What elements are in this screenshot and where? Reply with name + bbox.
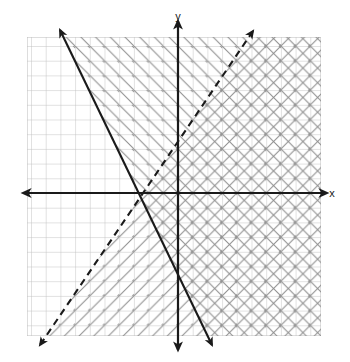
y-axis-label: y [175, 10, 181, 22]
x-axis-label: x [329, 187, 335, 199]
coordinate-plane-svg: x y [0, 0, 350, 362]
graph-figure: x y [0, 0, 350, 362]
